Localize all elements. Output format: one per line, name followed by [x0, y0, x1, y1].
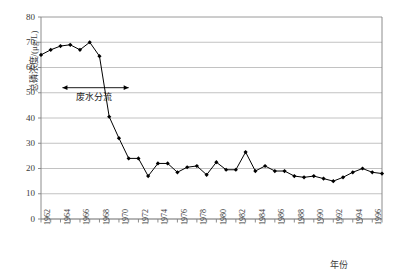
data-point-marker	[49, 48, 53, 52]
x-tick-label: 1996	[375, 209, 383, 225]
data-point-marker	[351, 170, 355, 174]
y-tick-label: 20	[9, 164, 35, 173]
y-tick-label: 30	[9, 139, 35, 148]
x-tick-label: 1990	[317, 209, 325, 225]
x-tick-label: 1968	[103, 209, 111, 225]
data-point-marker	[263, 164, 267, 168]
x-tick-label: 1964	[64, 209, 72, 225]
y-tick-label: 10	[9, 189, 35, 198]
data-point-marker	[321, 177, 325, 181]
x-tick-label: 1988	[298, 209, 306, 225]
data-point-marker	[244, 150, 248, 154]
data-point-marker	[282, 169, 286, 173]
data-point-marker	[117, 136, 121, 140]
x-tick-label: 1976	[181, 209, 189, 225]
annotation-arrow-head	[124, 85, 129, 90]
data-point-marker	[39, 53, 43, 57]
x-tick-label: 1966	[83, 209, 91, 225]
annotation-arrow-head	[62, 85, 67, 90]
data-point-marker	[370, 170, 374, 174]
x-tick-label: 1962	[44, 209, 52, 225]
data-point-marker	[127, 156, 131, 160]
y-tick-label: 60	[9, 63, 35, 72]
annotation-label: 废水分流	[76, 90, 112, 103]
x-tick-label: 1992	[336, 209, 344, 225]
x-tick-label: 1970	[122, 209, 130, 225]
plot-area	[0, 0, 397, 278]
data-point-marker	[380, 171, 384, 175]
data-point-marker	[292, 174, 296, 178]
data-point-marker	[302, 175, 306, 179]
x-tick-label: 1972	[142, 209, 150, 225]
data-point-marker	[273, 169, 277, 173]
data-point-marker	[312, 174, 316, 178]
y-tick-label: 80	[9, 13, 35, 22]
x-tick-label: 1978	[200, 209, 208, 225]
x-tick-label: 1980	[220, 209, 228, 225]
data-point-marker	[136, 156, 140, 160]
x-tick-label: 1986	[278, 209, 286, 225]
y-tick-label: 70	[9, 38, 35, 47]
x-tick-label: 1982	[239, 209, 247, 225]
data-point-marker	[341, 175, 345, 179]
data-point-marker	[58, 44, 62, 48]
y-tick-label: 50	[9, 88, 35, 97]
data-point-marker	[360, 166, 364, 170]
x-tick-label: 1994	[356, 209, 364, 225]
y-tick-label: 0	[9, 215, 35, 224]
data-point-marker	[253, 169, 257, 173]
data-line	[41, 42, 382, 181]
data-point-marker	[68, 43, 72, 47]
x-tick-label: 1974	[161, 209, 169, 225]
data-point-marker	[331, 179, 335, 183]
x-tick-label: 1984	[259, 209, 267, 225]
chart-container: 总磷浓度/(μg/L) 年份 01020304050607080 1962196…	[0, 0, 397, 278]
y-tick-label: 40	[9, 114, 35, 123]
